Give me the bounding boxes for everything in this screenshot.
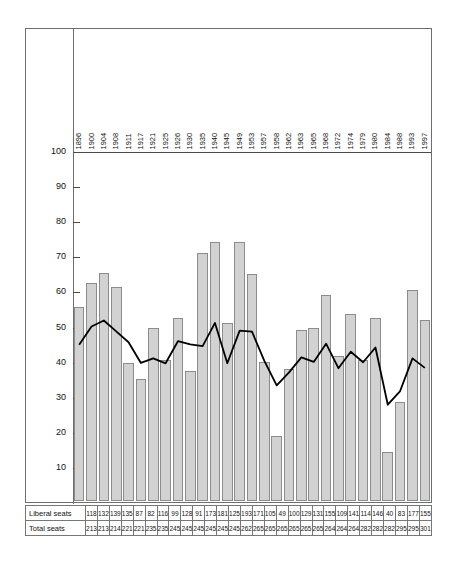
table-cell-1945: 245 [229, 521, 241, 536]
table-row: Liberal seats118132139135878211699128911… [26, 506, 432, 521]
year-label-1988: 1988 [396, 132, 404, 149]
table-row: Total seats21321321422122123523524524524… [26, 521, 432, 536]
year-label-1965: 1965 [309, 132, 317, 149]
year-label-1921: 1921 [149, 132, 157, 149]
table-cell-1974: 264 [348, 521, 360, 536]
table-cell-1926: 128 [181, 506, 193, 521]
table-cell-1921: 235 [157, 521, 169, 536]
table-cell-1993: 177 [407, 506, 419, 521]
table-cell-1940: 181 [217, 506, 229, 521]
y-tick-label-40: 40 [34, 358, 66, 367]
line-series-overlay [73, 29, 431, 504]
table-cell-1911: 87 [133, 506, 145, 521]
year-label-1962: 1962 [285, 132, 293, 149]
table-cell-1962: 265 [288, 521, 300, 536]
table-cell-1984: 40 [384, 506, 396, 521]
table-cell-1945: 125 [229, 506, 241, 521]
year-label-1963: 1963 [297, 132, 305, 149]
year-label-1900: 1900 [87, 132, 95, 149]
table-cell-1988: 295 [395, 521, 407, 536]
table-cell-1900: 132 [97, 506, 109, 521]
y-tick-label-50: 50 [34, 323, 66, 332]
year-label-1974: 1974 [346, 132, 354, 149]
table-cell-1925: 245 [169, 521, 181, 536]
year-label-1958: 1958 [272, 132, 280, 149]
table-cell-1997: 301 [419, 521, 431, 536]
table-cell-1925: 99 [169, 506, 181, 521]
table-cell-1993: 295 [407, 521, 419, 536]
table-cell-1972: 109 [336, 506, 348, 521]
table-cell-1908: 135 [121, 506, 133, 521]
y-tick-label-30: 30 [34, 393, 66, 402]
year-label-1968: 1968 [322, 132, 330, 149]
table-row-label: Total seats [26, 521, 86, 536]
year-label-1908: 1908 [112, 132, 120, 149]
year-label-1957: 1957 [260, 132, 268, 149]
table-cell-1935: 173 [205, 506, 217, 521]
year-label-1926: 1926 [173, 132, 181, 149]
year-label-1945: 1945 [223, 132, 231, 149]
table-cell-1908: 221 [121, 521, 133, 536]
table-cell-1957: 105 [264, 506, 276, 521]
table-cell-1958: 265 [276, 521, 288, 536]
table-cell-1904: 214 [109, 521, 121, 536]
year-label-1997: 1997 [420, 132, 428, 149]
table-cell-1957: 265 [264, 521, 276, 536]
table-cell-1979: 282 [360, 521, 372, 536]
year-label-1940: 1940 [210, 132, 218, 149]
table-cell-1953: 265 [252, 521, 264, 536]
table-cell-1896: 213 [86, 521, 98, 536]
chart-frame: 102030405060708090100 189619001904190819… [25, 28, 432, 503]
year-label-1993: 1993 [408, 132, 416, 149]
table-cell-1917: 82 [145, 506, 157, 521]
table-row-label: Liberal seats [26, 506, 86, 521]
table-cell-1953: 171 [252, 506, 264, 521]
table-cell-1935: 245 [205, 521, 217, 536]
year-label-1984: 1984 [383, 132, 391, 149]
table-cell-1963: 129 [300, 506, 312, 521]
table-cell-1896: 118 [86, 506, 98, 521]
year-label-1979: 1979 [359, 132, 367, 149]
y-tick-label-100: 100 [34, 147, 66, 156]
y-tick-label-70: 70 [34, 252, 66, 261]
table-cell-1979: 114 [360, 506, 372, 521]
table-cell-1949: 262 [240, 521, 252, 536]
table-cell-1997: 155 [419, 506, 431, 521]
year-label-1935: 1935 [198, 132, 206, 149]
y-tick-label-60: 60 [34, 287, 66, 296]
year-label-1917: 1917 [136, 132, 144, 149]
table-cell-1930: 91 [193, 506, 205, 521]
table-cell-1968: 155 [324, 506, 336, 521]
y-tick-label-20: 20 [34, 428, 66, 437]
chart-page: 102030405060708090100 189619001904190819… [0, 0, 457, 578]
year-label-1949: 1949 [235, 132, 243, 149]
seats-table: Liberal seats118132139135878211699128911… [25, 505, 432, 536]
year-label-1980: 1980 [371, 132, 379, 149]
table-cell-1917: 235 [145, 521, 157, 536]
table-cell-1930: 245 [193, 521, 205, 536]
table-cell-1980: 146 [372, 506, 384, 521]
year-label-1896: 1896 [75, 132, 83, 149]
table-cell-1900: 213 [97, 521, 109, 536]
y-tick-label-80: 80 [34, 217, 66, 226]
table-cell-1974: 141 [348, 506, 360, 521]
year-label-1953: 1953 [248, 132, 256, 149]
y-tick-label-10: 10 [34, 463, 66, 472]
table-cell-1980: 282 [372, 521, 384, 536]
table-cell-1962: 100 [288, 506, 300, 521]
table-cell-1965: 265 [312, 521, 324, 536]
table-cell-1926: 245 [181, 521, 193, 536]
table-cell-1965: 131 [312, 506, 324, 521]
vote-share-line [79, 320, 425, 404]
table-cell-1972: 264 [336, 521, 348, 536]
table-cell-1911: 221 [133, 521, 145, 536]
table-cell-1940: 245 [217, 521, 229, 536]
table-cell-1968: 264 [324, 521, 336, 536]
year-label-1972: 1972 [334, 132, 342, 149]
year-label-1911: 1911 [124, 133, 132, 149]
table-cell-1921: 116 [157, 506, 169, 521]
y-tick-label-90: 90 [34, 182, 66, 191]
year-label-1925: 1925 [161, 132, 169, 149]
table-cell-1958: 49 [276, 506, 288, 521]
table-cell-1904: 139 [109, 506, 121, 521]
